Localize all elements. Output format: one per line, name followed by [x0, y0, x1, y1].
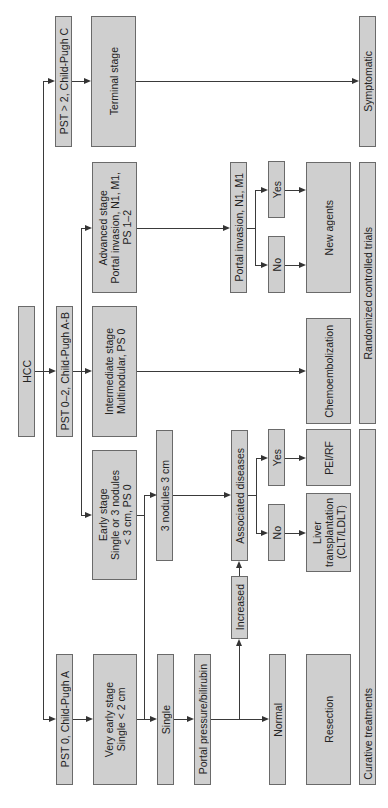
pst2-label: PST > 2, Child-Pugh C: [58, 28, 70, 134]
normal-label: Normal: [272, 703, 284, 737]
connector: [136, 81, 353, 82]
chemoembolization-node: Chemoembolization: [306, 318, 351, 424]
arrow-icon: [187, 716, 194, 722]
connector: [255, 190, 256, 265]
chemoembolization-label: Chemoembolization: [323, 325, 335, 418]
portal-pressure-label: Portal pressure/bilirubin: [197, 664, 209, 774]
arrow-icon: [299, 455, 306, 461]
new-agents-node: New agents: [306, 162, 351, 293]
connector: [73, 719, 86, 720]
increased-node: Increased: [231, 576, 248, 639]
arrow-icon: [261, 455, 268, 461]
connector: [239, 646, 240, 719]
no-assoc-label: No: [271, 526, 283, 539]
arrow-icon: [236, 639, 242, 646]
connector: [137, 228, 223, 229]
connector: [43, 81, 44, 719]
connector: [173, 495, 224, 496]
arrow-icon: [84, 78, 91, 84]
resection-node: Resection: [306, 654, 351, 785]
no-assoc-node: No: [268, 504, 285, 561]
arrow-icon: [85, 512, 92, 518]
pst02-node: PST 0–2, Child-Pugh A-B: [56, 306, 73, 437]
advanced-stage-node: Advanced stage Portal invasion, N1, M1, …: [92, 162, 137, 293]
arrow-icon: [261, 530, 268, 536]
rct-label: Randomized controlled trials: [362, 227, 374, 359]
connector: [137, 719, 150, 720]
arrow-icon: [85, 368, 92, 374]
associated-diseases-label: Associated diseases: [234, 448, 246, 544]
portal-invasion-node: Portal invasion, N1, M1: [230, 162, 247, 293]
arrow-icon: [150, 492, 157, 498]
three-nodules-label: 3 nodules 3 cm: [159, 460, 171, 531]
normal-node: Normal: [269, 654, 286, 785]
advanced-stage-label: Advanced stage Portal invasion, N1, M1, …: [97, 172, 133, 283]
arrow-icon: [49, 368, 56, 374]
connector: [137, 515, 144, 516]
pst02-label: PST 0–2, Child-Pugh A-B: [59, 312, 71, 430]
early-stage-node: Early stage Single or 3 nodules < 3 cm, …: [92, 450, 137, 580]
connector: [247, 228, 255, 229]
pst0-node: PST 0, Child-Pugh A: [56, 654, 73, 785]
arrow-icon: [85, 225, 92, 231]
terminal-stage-label: Terminal stage: [108, 47, 120, 115]
connector: [256, 458, 257, 533]
three-nodules-node: 3 nodules 3 cm: [156, 430, 173, 561]
arrow-icon: [262, 716, 269, 722]
symptomatic-label: Symptomatic: [362, 51, 374, 112]
connector: [285, 458, 299, 459]
portal-invasion-label: Portal invasion, N1, M1: [233, 173, 245, 282]
connector: [144, 495, 145, 719]
connector: [211, 719, 262, 720]
arrow-icon: [224, 492, 231, 498]
pst2-node: PST > 2, Child-Pugh C: [55, 16, 72, 147]
hcc-label: HCC: [21, 360, 33, 383]
arrow-icon: [236, 561, 242, 568]
liver-transplant-label: Liver transplantation (CLT/LDLT): [311, 498, 347, 567]
connector: [248, 495, 256, 496]
curative-category: Curative treatments: [359, 429, 376, 785]
terminal-stage-node: Terminal stage: [91, 16, 136, 147]
arrow-icon: [223, 225, 230, 231]
arrow-icon: [299, 262, 306, 268]
arrow-icon: [299, 530, 306, 536]
hcc-node: HCC: [18, 306, 35, 437]
connector: [81, 228, 82, 515]
associated-diseases-node: Associated diseases: [231, 430, 248, 561]
rct-category: Randomized controlled trials: [359, 162, 376, 424]
connector: [35, 371, 49, 372]
curative-label: Curative treatments: [362, 688, 374, 780]
pei-rf-node: PEI/RF: [306, 429, 351, 486]
arrow-icon: [299, 368, 306, 374]
connector: [239, 568, 240, 576]
very-early-stage-label: Very early stage Single < 2 cm: [103, 682, 127, 757]
arrow-icon: [86, 716, 93, 722]
arrow-icon: [299, 187, 306, 193]
arrow-icon: [261, 187, 268, 193]
arrow-icon: [352, 78, 359, 84]
new-agents-label: New agents: [323, 200, 335, 255]
intermediate-stage-node: Intermediate stage Multinodular, PS 0: [92, 306, 137, 437]
connector: [73, 371, 85, 372]
liver-transplant-node: Liver transplantation (CLT/LDLT): [306, 493, 351, 572]
connector: [174, 719, 187, 720]
no-portal-node: No: [268, 236, 285, 293]
very-early-stage-node: Very early stage Single < 2 cm: [93, 654, 137, 785]
early-stage-label: Early stage Single or 3 nodules < 3 cm, …: [97, 470, 133, 560]
yes-portal-label: Yes: [271, 181, 283, 198]
pst0-label: PST 0, Child-Pugh A: [59, 671, 71, 767]
connector: [285, 190, 299, 191]
symptomatic-category: Symptomatic: [359, 16, 376, 147]
single-node: Single: [157, 654, 174, 785]
yes-portal-node: Yes: [268, 161, 285, 218]
increased-label: Increased: [234, 584, 246, 630]
connector: [137, 371, 299, 372]
arrow-icon: [48, 78, 55, 84]
connector: [285, 265, 299, 266]
yes-assoc-label: Yes: [271, 449, 283, 466]
arrow-icon: [261, 262, 268, 268]
arrow-icon: [150, 716, 157, 722]
resection-label: Resection: [323, 696, 335, 743]
no-portal-label: No: [271, 258, 283, 271]
single-label: Single: [160, 705, 172, 734]
